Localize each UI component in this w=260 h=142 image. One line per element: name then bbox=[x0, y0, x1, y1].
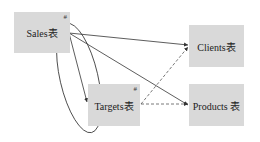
node-sales: Sales表 # bbox=[14, 12, 70, 53]
key-marker: # bbox=[64, 13, 68, 21]
node-products-label: Products 表 bbox=[193, 98, 241, 113]
node-targets-label: Targets表 bbox=[94, 98, 133, 113]
edge-targets-clients bbox=[141, 47, 188, 104]
node-products: Products 表 bbox=[189, 84, 244, 126]
node-targets: Targets表 # bbox=[88, 84, 140, 126]
node-sales-label: Sales表 bbox=[26, 25, 57, 40]
node-clients: Clients表 bbox=[189, 25, 244, 67]
node-clients-label: Clients表 bbox=[197, 39, 235, 54]
key-marker: # bbox=[134, 85, 138, 93]
edge-sales-targets bbox=[69, 33, 87, 102]
